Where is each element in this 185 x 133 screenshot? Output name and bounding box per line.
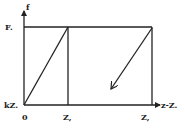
y-tick-bottom-label: kZ. <box>4 100 18 110</box>
x-axis-label: z-Z. <box>161 100 178 110</box>
x-tick-z1-label: Z, <box>63 112 72 122</box>
force-displacement-diagram: f F. kZ. 0 Z, Z, z-Z. <box>0 0 185 133</box>
y-tick-top-label: F. <box>5 22 13 32</box>
x-tick-origin-label: 0 <box>22 112 28 122</box>
y-axis-label: f <box>26 2 30 12</box>
unloading-arrow <box>111 28 152 89</box>
loading-diagonal-line <box>24 27 68 105</box>
x-tick-z2-label: Z, <box>141 112 150 122</box>
